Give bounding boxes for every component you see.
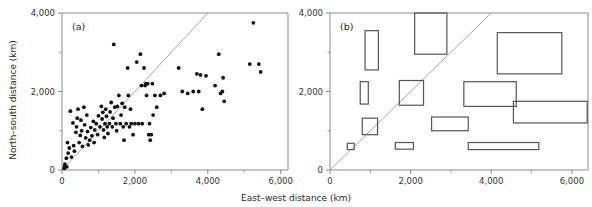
y-tick-label: 2,000: [299, 87, 323, 97]
scatter-point: [72, 144, 76, 148]
scatter-point: [159, 94, 163, 98]
scatter-point: [65, 165, 69, 169]
scatter-point: [89, 126, 93, 130]
scatter-point: [80, 129, 84, 133]
scatter-point: [102, 128, 106, 132]
scatter-point: [83, 123, 87, 127]
figure-svg: 02,0004,0006,00002,0004,000 (a) North–so…: [0, 0, 592, 207]
x-tick-label: 4,000: [196, 176, 220, 186]
scatter-point: [148, 138, 152, 142]
x-tick-label: 0: [327, 176, 332, 186]
scatter-point: [84, 136, 88, 140]
scatter-point: [221, 76, 225, 80]
scatter-point: [129, 107, 133, 111]
scatter-point: [117, 94, 121, 98]
scatter-point: [155, 105, 159, 109]
x-tick-label: 2,000: [398, 176, 422, 186]
scatter-point: [191, 90, 195, 94]
scatter-point: [90, 134, 94, 138]
panel-a-frame: [62, 13, 288, 170]
panel-a-tick-labels: 02,0004,0006,00002,0004,000: [31, 8, 293, 186]
scatter-point: [217, 52, 221, 56]
scatter-point: [195, 72, 199, 76]
scatter-point: [145, 94, 149, 98]
scatter-point: [131, 133, 135, 137]
scatter-point: [114, 122, 118, 126]
scatter-point: [162, 92, 166, 96]
scatter-point: [75, 125, 79, 129]
range-box: [415, 13, 447, 54]
scatter-point: [98, 125, 102, 129]
scatter-point: [110, 125, 114, 129]
scatter-point: [124, 122, 128, 126]
range-box: [497, 33, 562, 74]
scatter-point: [92, 141, 96, 145]
scatter-point: [115, 129, 119, 133]
scatter-point: [118, 122, 122, 126]
scatter-point: [86, 130, 90, 134]
scatter-point: [140, 122, 144, 126]
scatter-point: [107, 122, 111, 126]
scatter-point: [72, 149, 76, 153]
range-box: [347, 143, 354, 149]
scatter-point: [222, 99, 226, 103]
scatter-point: [82, 105, 86, 109]
scatter-point: [248, 62, 252, 66]
y-tick-label: 2,000: [31, 87, 55, 97]
scatter-point: [111, 116, 115, 120]
range-box: [468, 143, 539, 150]
scatter-point: [177, 66, 181, 70]
range-box: [395, 143, 413, 150]
scatter-point: [186, 92, 190, 96]
scatter-point: [120, 101, 124, 105]
range-box: [464, 82, 516, 107]
scatter-point: [86, 143, 90, 147]
y-tick-label: 4,000: [31, 8, 55, 18]
x-tick-label: 6,000: [269, 176, 293, 186]
scatter-point: [197, 90, 201, 94]
scatter-point: [71, 121, 75, 125]
scatter-point: [106, 132, 110, 136]
scatter-point: [137, 122, 141, 126]
scatter-point: [149, 133, 153, 137]
scatter-point: [220, 90, 224, 94]
scatter-point: [123, 105, 127, 109]
scatter-point: [81, 145, 85, 149]
panel-b-boxes: [347, 13, 587, 150]
scatter-point: [77, 141, 81, 145]
scatter-point: [199, 73, 203, 77]
scatter-point: [129, 122, 133, 126]
panel-a-ticks: [58, 13, 281, 174]
scatter-point: [93, 128, 97, 132]
range-box: [432, 117, 469, 131]
scatter-point: [259, 70, 263, 74]
scatter-point: [257, 62, 261, 66]
scatter-point: [126, 94, 130, 98]
scatter-point: [151, 113, 155, 117]
x-axis-title: East–west distance (km): [241, 193, 351, 203]
scatter-point: [105, 114, 109, 118]
x-tick-label: 6,000: [560, 176, 584, 186]
panel-b-label: (b): [340, 21, 353, 32]
scatter-point: [100, 117, 104, 121]
range-box: [399, 81, 423, 106]
y-tick-label: 0: [50, 165, 55, 175]
scatter-point: [108, 110, 112, 114]
scatter-point: [85, 113, 89, 117]
scatter-point: [66, 151, 70, 155]
x-tick-label: 2,000: [123, 176, 147, 186]
panel-a-scatter-points: [62, 21, 262, 170]
scatter-point: [151, 82, 155, 86]
scatter-point: [64, 156, 68, 160]
scatter-point: [76, 107, 80, 111]
scatter-point: [112, 43, 116, 47]
scatter-point: [78, 134, 82, 138]
scatter-point: [200, 107, 204, 111]
figure-container: 02,0004,0006,00002,0004,000 (a) North–so…: [0, 0, 592, 207]
y-tick-label: 0: [318, 165, 323, 175]
panel-a: 02,0004,0006,00002,0004,000 (a) North–so…: [8, 8, 293, 186]
y-tick-label: 4,000: [299, 8, 323, 18]
panel-a-label: (a): [72, 21, 85, 32]
scatter-point: [97, 114, 101, 118]
scatter-point: [105, 125, 109, 129]
